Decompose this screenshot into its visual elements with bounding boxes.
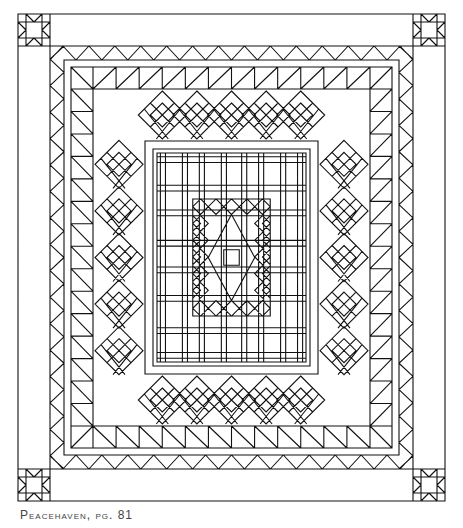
quilt-lines [18,14,445,501]
caption: Peacehaven, pg. 81 [20,508,133,522]
quilt-diagram [0,0,463,528]
